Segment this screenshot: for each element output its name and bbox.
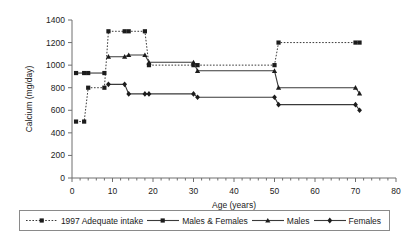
data-point-marker <box>126 91 131 97</box>
y-tick-label: 1400 <box>46 15 65 25</box>
legend-item-label: Females <box>347 216 385 226</box>
legend-swatch-triangle-icon <box>251 215 285 226</box>
calcium-intake-line-chart: 0200400600800100012001400Calcium (mg/day… <box>0 0 409 210</box>
data-point-marker <box>122 82 127 88</box>
x-tick-label: 50 <box>270 186 280 196</box>
y-tick-label: 600 <box>51 105 65 115</box>
data-point-marker <box>106 29 110 33</box>
y-tick-label: 200 <box>51 150 65 160</box>
y-tick-label: 400 <box>51 128 65 138</box>
data-point-marker <box>102 71 106 75</box>
legend-swatch-square-icon <box>25 215 59 226</box>
data-point-marker <box>82 119 86 123</box>
data-point-marker <box>74 71 78 75</box>
y-tick-label: 1000 <box>46 60 65 70</box>
legend-item-males[interactable]: Males <box>251 215 313 226</box>
legend-item-label: Males & Females <box>180 216 251 226</box>
series-1997-adequate-intake <box>74 29 362 123</box>
legend-marker <box>161 218 165 222</box>
series-males <box>106 52 362 95</box>
y-axis-title: Calcium (mg/day) <box>24 66 34 133</box>
y-tick-label: 1200 <box>46 38 65 48</box>
legend-marker <box>327 218 332 224</box>
series-females <box>106 82 362 114</box>
data-point-marker <box>86 71 90 75</box>
chart-legend: 1997 Adequate intakeMales & FemalesMales… <box>19 210 390 231</box>
data-point-marker <box>102 86 106 90</box>
data-point-marker <box>82 71 86 75</box>
data-point-marker <box>123 29 127 33</box>
data-point-marker <box>74 119 78 123</box>
x-tick-label: 40 <box>229 186 239 196</box>
legend-item-1997-adequate-intake[interactable]: 1997 Adequate intake <box>25 215 146 226</box>
data-point-marker <box>147 91 152 97</box>
x-tick-label: 0 <box>70 186 75 196</box>
x-tick-label: 10 <box>108 186 118 196</box>
x-axis-title: Age (years) <box>212 200 256 210</box>
data-point-marker <box>272 63 276 67</box>
data-point-marker <box>353 40 357 44</box>
chart-figure: 0200400600800100012001400Calcium (mg/day… <box>0 0 409 240</box>
x-tick-label: 70 <box>351 186 361 196</box>
data-point-marker <box>276 40 280 44</box>
series-line <box>108 55 359 93</box>
data-point-marker <box>357 40 361 44</box>
data-point-marker <box>143 29 147 33</box>
data-point-marker <box>86 86 90 90</box>
legend-marker <box>39 218 43 222</box>
legend-swatch-diamond-icon <box>313 215 347 226</box>
series-males-females <box>74 71 107 75</box>
legend-item-label: 1997 Adequate intake <box>59 216 146 226</box>
series-line <box>76 31 360 121</box>
legend-item-females[interactable]: Females <box>313 215 385 226</box>
legend-item-males-females[interactable]: Males & Females <box>146 215 251 226</box>
x-tick-label: 30 <box>189 186 199 196</box>
legend-item-label: Males <box>285 216 313 226</box>
data-point-marker <box>127 29 131 33</box>
data-point-marker <box>106 82 111 88</box>
x-tick-label: 20 <box>148 186 158 196</box>
x-tick-label: 60 <box>310 186 320 196</box>
y-tick-label: 0 <box>60 173 65 183</box>
y-tick-label: 800 <box>51 83 65 93</box>
x-tick-label: 80 <box>391 186 401 196</box>
legend-swatch-square-icon <box>146 215 180 226</box>
